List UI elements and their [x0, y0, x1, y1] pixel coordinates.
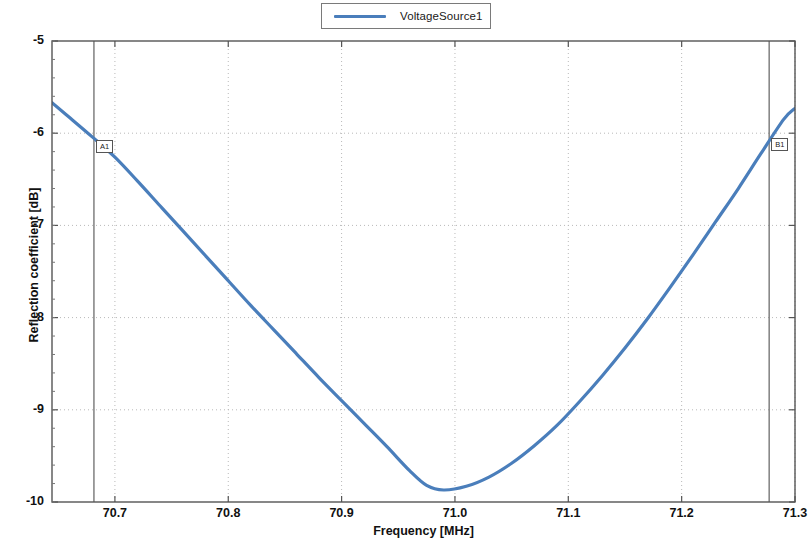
- legend-swatch-voltagesource1: [334, 15, 386, 18]
- legend-label-voltagesource1: VoltageSource1: [400, 10, 483, 22]
- y-tick-label: -10: [4, 494, 44, 508]
- x-tick-label: 71.1: [533, 506, 603, 520]
- y-axis-title: Reflection coefficient [dB]: [27, 145, 41, 385]
- x-tick-label: 70.8: [193, 506, 263, 520]
- x-tick-label: 70.7: [80, 506, 150, 520]
- y-tick-label: -8: [4, 310, 44, 324]
- x-tick-label: 71.0: [420, 506, 490, 520]
- marker-tag-a1[interactable]: A1: [96, 140, 113, 153]
- y-tick-label: -6: [4, 125, 44, 139]
- reflection-coefficient-chart: VoltageSource1 Reflection coefficient [d…: [0, 0, 809, 545]
- marker-tag-b1[interactable]: B1: [771, 138, 788, 151]
- y-tick-label: -9: [4, 402, 44, 416]
- x-tick-label: 70.9: [307, 506, 377, 520]
- plot-background: [52, 41, 795, 502]
- x-axis-title: Frequency [MHz]: [52, 524, 795, 538]
- x-tick-label: 71.2: [647, 506, 717, 520]
- plot-canvas: [0, 0, 809, 545]
- y-tick-label: -5: [4, 33, 44, 47]
- x-tick-label: 71.3: [760, 506, 809, 520]
- legend[interactable]: VoltageSource1: [321, 3, 491, 29]
- y-tick-label: -7: [4, 217, 44, 231]
